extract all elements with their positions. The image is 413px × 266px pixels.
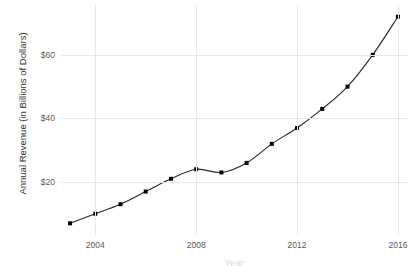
plot-area [60, 4, 408, 236]
gridline-vertical [196, 4, 197, 236]
data-point-marker [345, 85, 349, 89]
data-point-marker [119, 202, 123, 206]
x-axis-title: Year [60, 257, 408, 266]
data-point-marker [245, 161, 249, 165]
data-point-marker [320, 107, 324, 111]
line-series [60, 4, 408, 236]
chart-figure: Annual Revenue (in Billions of Dollars) … [0, 0, 413, 266]
gridline-horizontal [60, 55, 408, 56]
data-point-marker [169, 177, 173, 181]
gridline-vertical [297, 4, 298, 236]
x-tick-label: 2012 [288, 240, 307, 250]
gridline-vertical [398, 4, 399, 236]
gridline-vertical [95, 4, 96, 236]
gridline-horizontal [60, 118, 408, 119]
data-point-marker [219, 170, 223, 174]
data-point-marker [144, 190, 148, 194]
y-tick-label: $60 [41, 50, 55, 60]
y-tick-label: $20 [41, 177, 55, 187]
x-axis-tick-labels: 2004200820122016 [60, 240, 408, 254]
x-tick-label: 2004 [86, 240, 105, 250]
data-point-marker [270, 142, 274, 146]
x-tick-label: 2008 [187, 240, 206, 250]
y-axis-tick-labels: $20$40$60 [0, 4, 55, 236]
data-point-marker [68, 221, 72, 225]
x-tick-label: 2016 [388, 240, 407, 250]
gridline-horizontal [60, 182, 408, 183]
y-tick-label: $40 [41, 113, 55, 123]
series-line [70, 17, 398, 224]
